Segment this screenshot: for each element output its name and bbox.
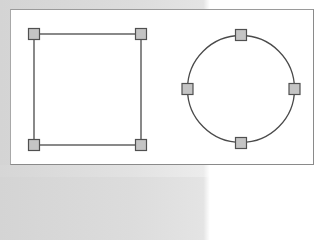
resize-handle-top-left[interactable] xyxy=(29,29,40,40)
resize-handle-bottom[interactable] xyxy=(236,138,247,149)
resize-handle-left[interactable] xyxy=(182,84,193,95)
resize-handle-bottom-left[interactable] xyxy=(29,140,40,151)
resize-handle-right[interactable] xyxy=(289,84,300,95)
rectangle-outline xyxy=(34,34,141,145)
resize-handle-top-right[interactable] xyxy=(136,29,147,40)
resize-handle-top[interactable] xyxy=(236,30,247,41)
circle-outline xyxy=(188,36,295,143)
rectangle-shape[interactable] xyxy=(29,29,147,151)
circle-shape[interactable] xyxy=(182,30,300,149)
resize-handle-bottom-right[interactable] xyxy=(136,140,147,151)
diagram-svg xyxy=(0,0,328,177)
